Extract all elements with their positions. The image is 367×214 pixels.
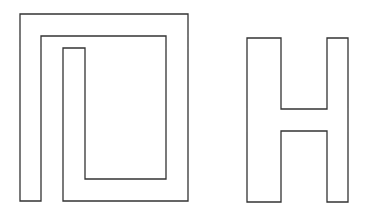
diagram-canvas [0,0,367,214]
letter-h-shape [247,38,348,202]
spiral-rectangle-shape [20,14,188,201]
